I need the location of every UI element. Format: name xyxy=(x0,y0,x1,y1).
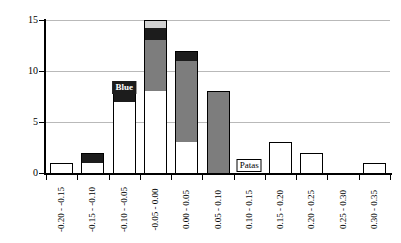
x-tick-label-text: 0.25 - 0.30 xyxy=(339,190,348,229)
bar-segment-white xyxy=(363,163,386,173)
bar-segment-black xyxy=(144,28,167,40)
bar-1 xyxy=(81,153,104,173)
x-tick-label-text: 0.00 - 0.05 xyxy=(182,190,191,229)
x-tick-label-text: 0.05 - 0.10 xyxy=(214,190,223,229)
bar-8 xyxy=(300,153,323,173)
x-tick-mark xyxy=(109,175,110,180)
y-axis: 15 10 5 0 xyxy=(0,0,38,243)
bar-segment-white xyxy=(81,163,104,173)
x-axis-labels: -0.20 - -0.15-0.15 - -0.10-0.10 - -0.05-… xyxy=(46,181,390,243)
bar-10 xyxy=(363,163,386,173)
x-tick-label: -0.10 - -0.05 xyxy=(109,181,140,241)
y-tick-label: 0 xyxy=(4,168,38,178)
x-tick-mark xyxy=(359,175,360,180)
bar-5 xyxy=(207,91,230,173)
bar-segment-white xyxy=(175,142,198,173)
x-tick-mark xyxy=(327,175,328,180)
plot-annotation-blue: Blue xyxy=(112,81,136,94)
plot-annotation-patas: Patas xyxy=(237,159,262,172)
x-tick-mark xyxy=(202,175,203,180)
gridline xyxy=(46,20,390,21)
x-tick-label: 0.10 - 0.15 xyxy=(234,181,265,241)
bar-0 xyxy=(50,163,73,173)
x-tick-mark xyxy=(140,175,141,180)
bar-segment-white xyxy=(50,163,73,173)
bar-segment-light-gray xyxy=(144,20,167,28)
x-tick-label: -0.20 - -0.15 xyxy=(46,181,77,241)
bar-3 xyxy=(144,20,167,173)
x-tick-label: 0.05 - 0.10 xyxy=(202,181,233,241)
x-tick-label: 0.20 - 0.25 xyxy=(296,181,327,241)
bar-segment-white xyxy=(269,142,292,173)
bar-segment-gray xyxy=(144,40,167,91)
x-tick-label-text: -0.10 - -0.05 xyxy=(120,187,129,232)
bar-4 xyxy=(175,51,198,173)
y-tick-label: 10 xyxy=(4,66,38,76)
x-axis-line xyxy=(44,173,392,175)
bar-segment-gray xyxy=(175,61,198,143)
x-tick-mark xyxy=(296,175,297,180)
bar-segment-white xyxy=(300,153,323,173)
x-tick-label-text: 0.15 - 0.20 xyxy=(276,190,285,229)
x-tick-label-text: 0.10 - 0.15 xyxy=(245,190,254,229)
x-tick-mark xyxy=(390,175,391,180)
x-tick-label-text: -0.05 - 0.00 xyxy=(151,189,160,231)
x-tick-label-text: 0.30 - 0.35 xyxy=(370,190,379,229)
x-tick-label: -0.15 - -0.10 xyxy=(77,181,108,241)
x-tick-label: 0.00 - 0.05 xyxy=(171,181,202,241)
bar-segment-gray xyxy=(207,91,230,173)
bar-segment-black xyxy=(81,153,104,163)
x-tick-label: 0.30 - 0.35 xyxy=(359,181,390,241)
x-tick-mark xyxy=(46,175,47,180)
x-tick-label-text: -0.20 - -0.15 xyxy=(57,187,66,232)
plot-area: BluePatas xyxy=(46,20,390,173)
bar-7 xyxy=(269,142,292,173)
bar-segment-black xyxy=(175,51,198,61)
y-tick-label: 15 xyxy=(4,15,38,25)
x-tick-label-text: -0.15 - -0.10 xyxy=(88,187,97,232)
y-tick-label: 5 xyxy=(4,117,38,127)
bar-segment-white xyxy=(113,102,136,173)
bar-2 xyxy=(113,81,136,173)
x-tick-mark xyxy=(265,175,266,180)
x-tick-label: -0.05 - 0.00 xyxy=(140,181,171,241)
x-tick-mark xyxy=(77,175,78,180)
x-tick-label: 0.15 - 0.20 xyxy=(265,181,296,241)
x-tick-mark xyxy=(171,175,172,180)
x-tick-label-text: 0.20 - 0.25 xyxy=(307,190,316,229)
bar-segment-white xyxy=(144,91,167,173)
x-tick-mark xyxy=(234,175,235,180)
gridline xyxy=(46,71,390,72)
histogram-chart: 15 10 5 0 BluePatas -0.20 - -0.15-0.15 -… xyxy=(0,0,401,243)
x-tick-label: 0.25 - 0.30 xyxy=(327,181,358,241)
